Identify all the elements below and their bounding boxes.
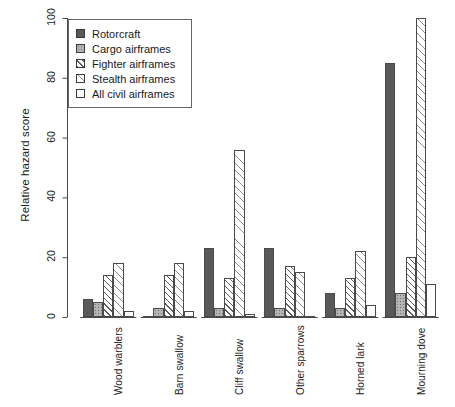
x-tick-label: Barn swallow — [174, 335, 185, 395]
legend-label: Fighter airframes — [92, 58, 175, 70]
legend-label: All civil airframes — [92, 88, 175, 100]
legend-label: Stealth airframes — [92, 73, 175, 85]
legend-item: Fighter airframes — [76, 56, 182, 71]
x-tick-label: Cliff swallow — [234, 339, 245, 395]
legend-label: Cargo airframes — [92, 43, 171, 55]
x-tick-label: Other sparrows — [295, 325, 306, 395]
legend: RotorcraftCargo airframesFighter airfram… — [68, 19, 192, 108]
x-tick-label: Horned lark — [355, 342, 366, 395]
legend-item: Rotorcraft — [76, 26, 182, 41]
bar-chart: Relative hazard score 020406080100 Wood … — [0, 0, 455, 407]
x-tick-label: Wood warblers — [113, 327, 124, 395]
legend-item: Cargo airframes — [76, 41, 182, 56]
legend-swatch-icon — [76, 89, 85, 98]
x-tick-label: Mourning dove — [416, 328, 427, 395]
legend-swatch-icon — [76, 59, 85, 68]
legend-swatch-icon — [76, 44, 85, 53]
legend-swatch-icon — [76, 74, 85, 83]
legend-label: Rotorcraft — [92, 28, 140, 40]
legend-swatch-icon — [76, 29, 85, 38]
legend-item: Stealth airframes — [76, 71, 182, 86]
legend-item: All civil airframes — [76, 86, 182, 101]
